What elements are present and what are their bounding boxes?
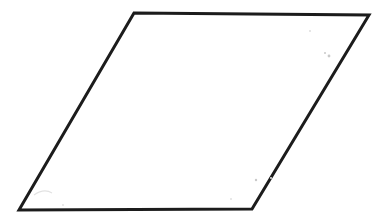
- speck-upper-right-c: [328, 55, 331, 58]
- speck-upper-right-b: [324, 52, 326, 54]
- speck-lower-middle: [230, 198, 232, 200]
- speck-upper-right-a: [309, 30, 311, 32]
- speck-lower-right-a: [255, 179, 257, 181]
- figure-canvas: [0, 0, 378, 221]
- speck-lower-left: [62, 204, 64, 206]
- speck-lower-right-b: [270, 177, 272, 179]
- parallelogram-drawing: [0, 0, 378, 221]
